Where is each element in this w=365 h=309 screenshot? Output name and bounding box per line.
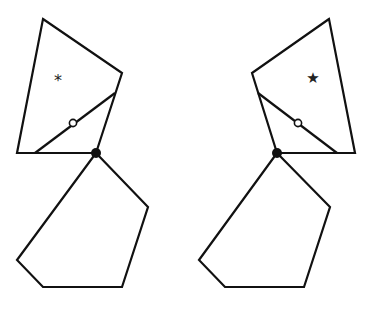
right-figure: ★: [199, 19, 355, 287]
star-icon: ★: [306, 69, 319, 87]
right-lower-pentagon: [199, 153, 330, 287]
left-lower-pentagon: [17, 153, 148, 287]
left-open-circle-marker: [69, 119, 76, 126]
left-upper-quadrilateral: [17, 19, 122, 153]
right-open-circle-marker: [294, 119, 301, 126]
right-upper-quadrilateral: [252, 19, 355, 153]
asterisk-icon: *: [54, 71, 62, 90]
left-figure: *: [17, 19, 148, 287]
right-hinge-dot: [272, 148, 282, 158]
mirror-polygons-diagram: * ★: [0, 0, 365, 309]
left-hinge-dot: [91, 148, 101, 158]
